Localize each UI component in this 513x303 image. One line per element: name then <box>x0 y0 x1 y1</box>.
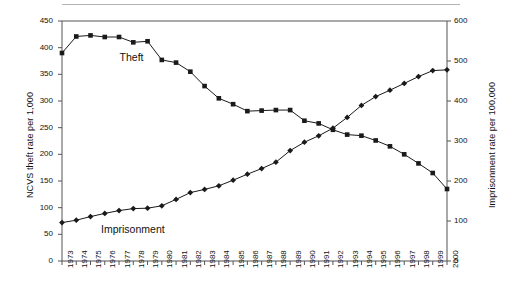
y-axis-left-tick: 350 <box>29 69 53 78</box>
series-label-imprisonment: Imprisonment <box>101 223 165 235</box>
x-axis-tick: 1994 <box>365 250 374 268</box>
y-axis-left-tick: 100 <box>29 203 53 212</box>
y-axis-left-tick: 0 <box>29 256 53 265</box>
top-divider-rule <box>62 4 460 5</box>
x-axis-tick: 1995 <box>379 250 388 268</box>
x-axis-tick: 1984 <box>222 250 231 268</box>
x-axis-tick: 1998 <box>422 250 431 268</box>
y-axis-left-tick: 300 <box>29 96 53 105</box>
x-axis-tick: 1980 <box>165 250 174 268</box>
x-axis-tick: 1985 <box>237 250 246 268</box>
x-axis-tick: 1978 <box>137 250 146 268</box>
x-axis-tick: 1976 <box>108 250 117 268</box>
x-axis-tick: 1996 <box>393 250 402 268</box>
y-axis-left-tick: 450 <box>29 16 53 25</box>
x-axis-tick: 1999 <box>436 250 445 268</box>
y-axis-right-tick: 100 <box>454 216 480 225</box>
x-axis-tick: 1973 <box>66 250 75 268</box>
series-label-theft: Theft <box>120 51 144 63</box>
x-axis-tick: 1997 <box>408 250 417 268</box>
x-axis-tick: 1988 <box>279 250 288 268</box>
x-axis-tick: 1975 <box>94 250 103 268</box>
y-axis-right-tick: 300 <box>454 136 480 145</box>
x-axis-tick: 1989 <box>294 250 303 268</box>
x-axis-tick: 1977 <box>123 250 132 268</box>
y-axis-right-tick: 500 <box>454 56 480 65</box>
x-axis-tick: 1991 <box>322 250 331 268</box>
x-axis-tick: 1974 <box>80 250 89 268</box>
x-axis-tick: 1990 <box>308 250 317 268</box>
x-axis-tick: 1982 <box>194 250 203 268</box>
x-axis-tick: 1983 <box>208 250 217 268</box>
x-axis-tick: 1986 <box>251 250 260 268</box>
x-axis-tick: 1981 <box>180 250 189 268</box>
y-axis-left-tick: 250 <box>29 123 53 132</box>
y-axis-right-tick: 200 <box>454 176 480 185</box>
y-axis-right-tick: 400 <box>454 96 480 105</box>
y-axis-left-tick: 200 <box>29 149 53 158</box>
chart-figure: NCVS theft rate per 1,000 Imprisonment r… <box>0 0 513 303</box>
y-axis-left-title: NCVS theft rate per 1,000 <box>25 65 35 225</box>
y-axis-left-tick: 50 <box>29 229 53 238</box>
x-axis-tick: 1979 <box>151 250 160 268</box>
x-axis-tick: 1992 <box>336 250 345 268</box>
y-axis-left-tick: 150 <box>29 176 53 185</box>
x-axis-tick: 2000 <box>451 250 460 268</box>
y-axis-left-tick: 400 <box>29 43 53 52</box>
y-axis-right-title: Imprisonment rate per 100,000 <box>487 65 497 225</box>
x-axis-tick: 1987 <box>265 250 274 268</box>
x-axis-tick: 1993 <box>351 250 360 268</box>
y-axis-right-tick: 600 <box>454 16 480 25</box>
